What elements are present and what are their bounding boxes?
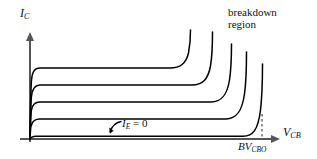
y-axis-arrowhead <box>26 32 34 41</box>
ie-equals-zero: = 0 <box>130 117 147 129</box>
x-axis-subscript: CB <box>290 131 300 140</box>
bv-cbo-prefix: BV <box>238 140 251 152</box>
y-axis-subscript: C <box>24 12 29 21</box>
ie-zero-label: IE = 0 <box>122 117 147 131</box>
y-axis-label: IC <box>20 7 29 21</box>
x-axis-label: VCB <box>283 126 301 140</box>
bv-cbo-subscript: CBO <box>251 145 266 154</box>
x-axis-arrowhead <box>271 135 280 143</box>
breakdown-region-line2: region <box>228 18 277 30</box>
breakdown-region-label: breakdown region <box>228 6 277 31</box>
breakdown-region-line1: breakdown <box>228 6 277 18</box>
bv-cbo-label: BVCBO <box>238 140 266 154</box>
